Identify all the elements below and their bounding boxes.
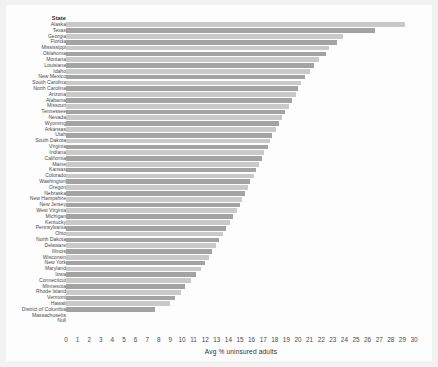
bar[interactable] bbox=[66, 115, 282, 120]
value-axis-tick: 26 bbox=[364, 335, 371, 344]
bar[interactable] bbox=[66, 98, 292, 103]
bar[interactable] bbox=[66, 40, 337, 45]
value-axis-tick: 0 bbox=[64, 335, 68, 344]
value-axis-tick: 23 bbox=[329, 335, 336, 344]
bar-row[interactable]: Null bbox=[6, 318, 432, 324]
bar[interactable] bbox=[66, 208, 237, 213]
bar[interactable] bbox=[66, 121, 279, 126]
bar[interactable] bbox=[66, 28, 375, 33]
value-axis-tick: 28 bbox=[387, 335, 394, 344]
value-axis-tick: 16 bbox=[248, 335, 255, 344]
value-axis-tick: 29 bbox=[399, 335, 406, 344]
value-axis-tick: 12 bbox=[202, 335, 209, 344]
bar[interactable] bbox=[66, 238, 219, 243]
bar-rows: State AlaskaTexasGeorgiaFloridaMississip… bbox=[6, 15, 432, 324]
bar[interactable] bbox=[66, 86, 298, 91]
bar[interactable] bbox=[66, 226, 226, 231]
bar[interactable] bbox=[66, 174, 254, 179]
bar-chart: State AlaskaTexasGeorgiaFloridaMississip… bbox=[6, 5, 432, 361]
value-axis-tick: 3 bbox=[99, 335, 103, 344]
bar[interactable] bbox=[66, 255, 209, 260]
bar[interactable] bbox=[66, 127, 276, 132]
value-axis-tick: 20 bbox=[294, 335, 301, 344]
bar[interactable] bbox=[66, 110, 285, 115]
value-axis-tick: 19 bbox=[283, 335, 290, 344]
bar-row-label: Null bbox=[0, 318, 66, 324]
value-axis-tick: 30 bbox=[410, 335, 417, 344]
chart-container: State AlaskaTexasGeorgiaFloridaMississip… bbox=[0, 0, 438, 367]
bar[interactable] bbox=[66, 296, 175, 301]
bar[interactable] bbox=[66, 197, 242, 202]
bar[interactable] bbox=[66, 156, 262, 161]
bar[interactable] bbox=[66, 249, 212, 254]
value-axis-title: Avg % uninsured adults bbox=[6, 348, 432, 355]
value-axis-tick: 2 bbox=[87, 335, 91, 344]
bar[interactable] bbox=[66, 272, 196, 277]
value-axis-tick: 25 bbox=[352, 335, 359, 344]
bar[interactable] bbox=[66, 191, 245, 196]
bar[interactable] bbox=[66, 232, 223, 237]
bar[interactable] bbox=[66, 139, 270, 144]
bar[interactable] bbox=[66, 52, 326, 57]
value-axis-tick: 10 bbox=[178, 335, 185, 344]
bar-track bbox=[66, 318, 432, 324]
bar[interactable] bbox=[66, 243, 216, 248]
value-axis-tick: 9 bbox=[169, 335, 173, 344]
bar[interactable] bbox=[66, 63, 314, 68]
plot-card: State AlaskaTexasGeorgiaFloridaMississip… bbox=[6, 5, 432, 361]
bar[interactable] bbox=[66, 301, 170, 306]
bar[interactable] bbox=[66, 290, 181, 295]
value-axis-tick: 1 bbox=[76, 335, 80, 344]
bar[interactable] bbox=[66, 150, 264, 155]
value-axis-tick: 8 bbox=[157, 335, 161, 344]
value-axis-tick: 17 bbox=[260, 335, 267, 344]
bar[interactable] bbox=[66, 168, 256, 173]
bar[interactable] bbox=[66, 267, 201, 272]
bar[interactable] bbox=[66, 214, 233, 219]
value-axis-tick: 21 bbox=[306, 335, 313, 344]
value-axis-tick: 4 bbox=[111, 335, 115, 344]
value-axis-tick: 11 bbox=[190, 335, 197, 344]
value-axis-tick: 13 bbox=[213, 335, 220, 344]
bar[interactable] bbox=[66, 46, 329, 51]
bar[interactable] bbox=[66, 75, 305, 80]
value-axis-tick: 22 bbox=[318, 335, 325, 344]
bar[interactable] bbox=[66, 307, 155, 312]
axis-header-row: State bbox=[6, 15, 432, 22]
bar[interactable] bbox=[66, 104, 289, 109]
bar[interactable] bbox=[66, 69, 310, 74]
bar[interactable] bbox=[66, 34, 343, 39]
value-axis-tick: 5 bbox=[122, 335, 126, 344]
bar[interactable] bbox=[66, 81, 301, 86]
bar[interactable] bbox=[66, 278, 191, 283]
bar[interactable] bbox=[66, 92, 296, 97]
bar[interactable] bbox=[66, 22, 405, 27]
value-axis-tick: 7 bbox=[145, 335, 149, 344]
bar[interactable] bbox=[66, 145, 268, 150]
bar[interactable] bbox=[66, 179, 250, 184]
bar[interactable] bbox=[66, 261, 205, 266]
bar[interactable] bbox=[66, 133, 272, 138]
bar[interactable] bbox=[66, 185, 248, 190]
value-axis-tick: 14 bbox=[225, 335, 232, 344]
bar[interactable] bbox=[66, 162, 259, 167]
value-axis-tick: 27 bbox=[376, 335, 383, 344]
value-axis: Avg % uninsured adults 01234567891011121… bbox=[6, 335, 432, 361]
bar[interactable] bbox=[66, 220, 230, 225]
value-axis-tick: 6 bbox=[134, 335, 138, 344]
value-axis-tick: 24 bbox=[341, 335, 348, 344]
value-axis-tick: 15 bbox=[236, 335, 243, 344]
bar[interactable] bbox=[66, 57, 319, 62]
value-axis-title-text: Avg % uninsured adults bbox=[161, 348, 277, 355]
bar[interactable] bbox=[66, 284, 185, 289]
value-axis-tick: 18 bbox=[271, 335, 278, 344]
bar[interactable] bbox=[66, 203, 240, 208]
